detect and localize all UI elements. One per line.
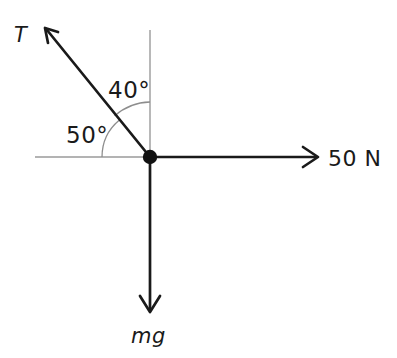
angle-arc-40-degrees <box>115 102 150 116</box>
angle-label-50-degrees: 50° <box>66 122 108 148</box>
applied-force-vector-group <box>150 147 318 167</box>
angle-label-40-degrees: 40° <box>108 77 150 103</box>
applied-force-label: 50 N <box>328 146 381 171</box>
force-diagram: T 50 N mg 40° 50° <box>0 0 397 358</box>
tension-label: T <box>14 23 29 47</box>
force-diagram-canvas: T 50 N mg 40° 50° <box>0 0 397 358</box>
axes-group <box>35 30 318 312</box>
weight-label: mg <box>131 324 166 348</box>
origin-point-dot <box>143 150 157 164</box>
labels-group: T 50 N mg 40° 50° <box>14 23 381 348</box>
weight-vector-group <box>140 157 160 312</box>
